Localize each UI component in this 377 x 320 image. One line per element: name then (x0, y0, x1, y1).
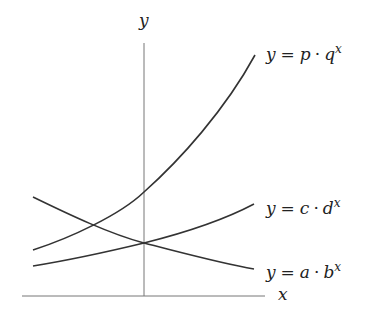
exponential-diagram: y x y=p·qx y=c·dx y=a·bx (0, 0, 377, 320)
x-axis-label: x (278, 284, 288, 304)
label-p-q: y=p·qx (265, 42, 342, 64)
label-c-d: y=c·dx (265, 196, 341, 218)
y-axis-label: y (138, 10, 149, 30)
label-a-b: y=a·bx (265, 260, 341, 282)
